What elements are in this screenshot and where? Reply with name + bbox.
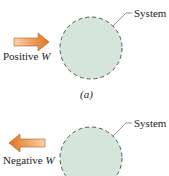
panel-caption: (a) bbox=[80, 88, 93, 100]
work-symbol: W bbox=[45, 154, 54, 166]
system-label: System bbox=[134, 117, 166, 129]
panel-a-positive-work: System Positive W (a) bbox=[0, 0, 169, 100]
system-label: System bbox=[134, 7, 166, 19]
arrow-left-icon bbox=[9, 134, 45, 152]
work-sign-text: Negative bbox=[3, 154, 43, 166]
system-leader-line bbox=[113, 13, 132, 26]
work-symbol: W bbox=[41, 50, 50, 62]
arrow-right-icon bbox=[14, 33, 49, 51]
work-sign-text: Positive bbox=[3, 50, 38, 62]
system-leader-line bbox=[113, 123, 132, 136]
system-circle bbox=[60, 17, 122, 79]
system-circle bbox=[60, 127, 122, 176]
work-label: Negative W bbox=[3, 154, 55, 166]
work-label: Positive W bbox=[3, 50, 50, 62]
panel-b-negative-work: System Negative W bbox=[0, 108, 169, 176]
